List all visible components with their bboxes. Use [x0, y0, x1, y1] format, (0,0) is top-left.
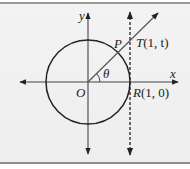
- y-axis-label: y: [77, 8, 85, 23]
- unit-circle-diagram: y x O θ P T(1, t) R(1, 0): [0, 0, 190, 169]
- point-r-label: R(1, 0): [132, 85, 169, 100]
- x-axis-label: x: [169, 66, 176, 81]
- origin-label: O: [76, 85, 86, 100]
- angle-arc: [97, 74, 101, 83]
- angle-label: θ: [103, 66, 110, 81]
- point-p-label: P: [113, 36, 122, 51]
- point-t-label: T(1, t): [136, 35, 169, 50]
